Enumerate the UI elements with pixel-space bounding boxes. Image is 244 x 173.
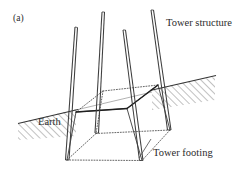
tower-leg-1 <box>66 27 78 160</box>
tower-leg-3 <box>123 30 143 161</box>
label-tower-structure: Tower structure <box>166 18 232 29</box>
panel-label: (a) <box>13 14 24 24</box>
figure-container: (a) Tower structure Earth Tower footing <box>0 0 244 173</box>
tower-leg-2 <box>95 12 105 133</box>
label-tower-footing: Tower footing <box>153 148 213 159</box>
label-earth: Earth <box>38 117 61 128</box>
earth-surface-line-middle <box>78 92 152 110</box>
